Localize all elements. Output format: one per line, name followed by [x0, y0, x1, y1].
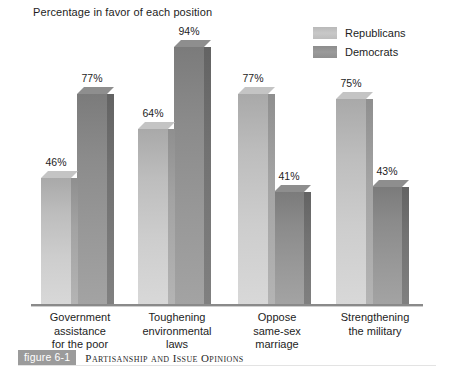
bar-side-face	[366, 99, 373, 304]
figure-partisanship-issue-opinions: Percentage in favor of each position Rep…	[0, 0, 452, 375]
bar-republicans-3	[238, 94, 268, 304]
category-label-line: the military	[320, 325, 430, 339]
caption-rule	[18, 365, 436, 366]
bar-front-face	[274, 192, 304, 304]
bar-value-label-republicans-2: 64%	[132, 107, 174, 119]
bar-top-face	[138, 122, 175, 129]
bar-top-face	[336, 92, 373, 99]
bar-side-face	[402, 187, 409, 304]
bar-democrats-1	[77, 94, 107, 304]
bar-top-face	[174, 40, 211, 47]
bar-top-face	[77, 87, 114, 94]
category-label-line: same-sex	[222, 325, 332, 339]
x-axis-baseline	[31, 304, 423, 306]
bar-side-face	[268, 94, 275, 304]
bar-democrats-3	[274, 192, 304, 304]
category-label-4: Strengtheningthe military	[320, 311, 430, 338]
figure-number-tag: figure 6-1	[18, 350, 76, 365]
bar-front-face	[174, 47, 204, 304]
bar-value-label-republicans-1: 46%	[35, 156, 77, 168]
plot-area: 46%77%64%94%77%41%75%43% Governmentassis…	[0, 0, 452, 375]
bar-front-face	[41, 178, 71, 304]
bar-top-face	[372, 180, 409, 187]
bar-front-face	[372, 187, 402, 304]
figure-caption-text: Partisanship and Issue Opinions	[85, 352, 243, 364]
category-label-line: Strengthening	[320, 311, 430, 325]
bar-republicans-4	[336, 99, 366, 304]
bar-value-label-republicans-3: 77%	[232, 72, 274, 84]
bar-side-face	[304, 192, 311, 304]
bar-side-face	[168, 129, 175, 304]
bar-side-face	[71, 178, 78, 304]
figure-caption: figure 6-1 Partisanship and Issue Opinio…	[18, 350, 244, 365]
category-label-line: assistance	[25, 325, 135, 339]
category-label-1: Governmentassistancefor the poor	[25, 311, 135, 352]
category-label-line: Government	[25, 311, 135, 325]
bar-value-label-democrats-2: 94%	[168, 25, 210, 37]
bar-top-face	[41, 171, 78, 178]
bar-front-face	[77, 94, 107, 304]
bar-top-face	[274, 185, 311, 192]
bar-value-label-democrats-1: 77%	[71, 72, 113, 84]
category-label-line: Oppose	[222, 311, 332, 325]
bar-front-face	[336, 99, 366, 304]
bar-top-face	[238, 87, 275, 94]
bar-democrats-4	[372, 187, 402, 304]
category-label-line: environmental	[122, 325, 232, 339]
bar-value-label-republicans-4: 75%	[330, 77, 372, 89]
bar-democrats-2	[174, 47, 204, 304]
bar-front-face	[138, 129, 168, 304]
bar-side-face	[107, 94, 114, 304]
bar-side-face	[204, 47, 211, 304]
category-label-2: Tougheningenvironmentallaws	[122, 311, 232, 352]
bar-republicans-1	[41, 178, 71, 304]
bar-front-face	[238, 94, 268, 304]
bar-republicans-2	[138, 129, 168, 304]
category-label-3: Opposesame-sexmarriage	[222, 311, 332, 352]
category-label-line: Toughening	[122, 311, 232, 325]
